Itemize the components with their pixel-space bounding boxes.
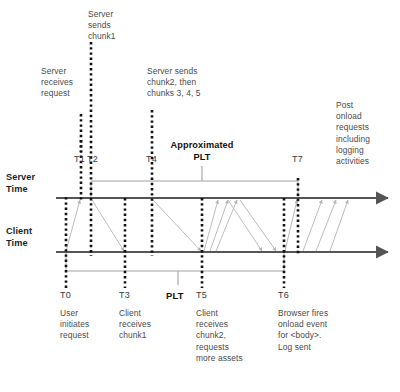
tick-label-t2: T2 — [87, 154, 98, 164]
server-time-axis-label: Server Time — [6, 172, 35, 195]
note-browser-onload-event: Browser fires onload event for <body>. L… — [278, 308, 364, 353]
note-client-receives-chunk1: Client receives chunk1 — [119, 308, 175, 342]
plt-label: PLT — [166, 290, 184, 301]
client-time-axis-label: Client Time — [6, 226, 32, 249]
tick-label-t0: T0 — [60, 290, 71, 300]
note-post-onload-requests: Post onload requests including logging a… — [336, 100, 392, 167]
tick-label-t5: T5 — [196, 290, 207, 300]
transfer-arrows — [66, 200, 348, 251]
tick-label-t7: T7 — [292, 154, 303, 164]
tick-label-t6: T6 — [278, 290, 289, 300]
note-user-initiates-request: User initiates request — [60, 308, 116, 342]
approximated-plt-label: Approximated PLT — [160, 140, 244, 163]
timing-diagram: Server Time Client Time T1 T2 T4 T7 T0 T… — [0, 0, 400, 392]
tick-label-t1: T1 — [74, 154, 85, 164]
note-server-receives-request: Server receives request — [41, 66, 87, 100]
client-span-bracket — [66, 253, 284, 285]
note-server-sends-chunk1: Server sends chunk1 — [88, 9, 140, 43]
note-server-sends-chunk2: Server sends chunk2, then chunks 3, 4, 5 — [147, 66, 223, 100]
server-span-bracket — [91, 166, 298, 197]
tick-label-t4: T4 — [146, 154, 157, 164]
note-client-receives-chunk2: Client receives chunk2, requests more as… — [196, 308, 256, 364]
tick-label-t3: T3 — [119, 290, 130, 300]
